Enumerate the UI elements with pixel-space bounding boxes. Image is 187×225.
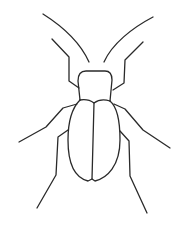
beetle-illustration bbox=[0, 0, 187, 225]
left-antenna bbox=[43, 14, 89, 62]
right-hind-leg bbox=[120, 131, 147, 213]
right-front-leg bbox=[113, 42, 143, 90]
right-antenna bbox=[104, 17, 153, 62]
beetle-drawing bbox=[0, 0, 187, 225]
elytra-suture bbox=[92, 103, 94, 179]
pronotum bbox=[78, 71, 112, 101]
left-hind-leg bbox=[37, 130, 68, 208]
left-front-leg bbox=[52, 39, 79, 88]
right-middle-leg bbox=[114, 104, 170, 148]
elytra-top-edge bbox=[80, 100, 110, 103]
